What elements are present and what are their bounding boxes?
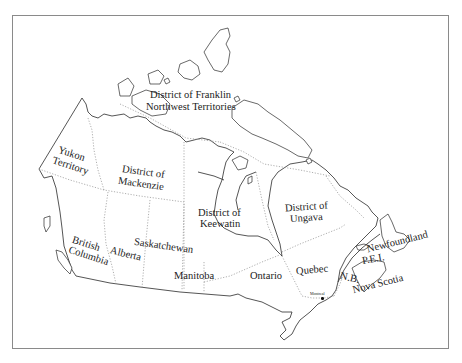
arctic-island-1 [178,60,200,80]
label-district-of-keewatin-2: Keewatin [200,218,240,229]
small-island-3 [306,158,312,164]
label-northwest-territories: Northwest Territories [146,101,236,112]
southampton-island [232,156,248,170]
label-ontario: Ontario [250,270,282,281]
border-bc-alberta [104,192,116,284]
label-montreal: Montreal [310,291,325,296]
banks-island [118,78,134,96]
arctic-island-2 [148,70,164,84]
label-district-of-ungava-2: Ungava [290,211,323,224]
ellesmere-island [204,28,230,72]
border-quebec-ungava [282,224,346,252]
hudson-bay-coast-2 [236,172,256,210]
baffin-island [232,100,312,158]
canada-map [0,0,462,363]
border-yukon-mackenzie [88,118,104,190]
label-district-of-franklin: District of Franklin [150,89,231,100]
queen-charlotte-islands [44,216,50,232]
small-island-1 [164,78,170,84]
label-manitoba: Manitoba [174,270,214,281]
lake-island-1 [248,176,252,184]
hudson-bay-coast [198,172,224,180]
montreal-marker-icon [321,297,324,300]
border-labrador [326,176,364,218]
label-district-of-keewatin-1: District of [198,207,241,218]
